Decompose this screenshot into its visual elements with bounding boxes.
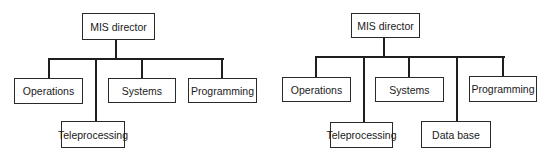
connector xyxy=(456,56,458,121)
connector xyxy=(408,56,410,77)
connector xyxy=(315,56,505,58)
node-systems: Systems xyxy=(375,77,444,102)
connector xyxy=(363,56,365,122)
connector xyxy=(383,38,385,58)
node-mis-director: MIS director xyxy=(351,13,420,38)
org-chart-right: MIS director Operations Teleprocessing S… xyxy=(0,0,554,158)
node-data-base: Data base xyxy=(421,121,491,148)
node-programming: Programming xyxy=(469,76,537,102)
connector xyxy=(502,56,504,76)
node-operations: Operations xyxy=(282,77,351,102)
connector xyxy=(315,56,317,77)
node-teleprocessing: Teleprocessing xyxy=(330,122,393,148)
